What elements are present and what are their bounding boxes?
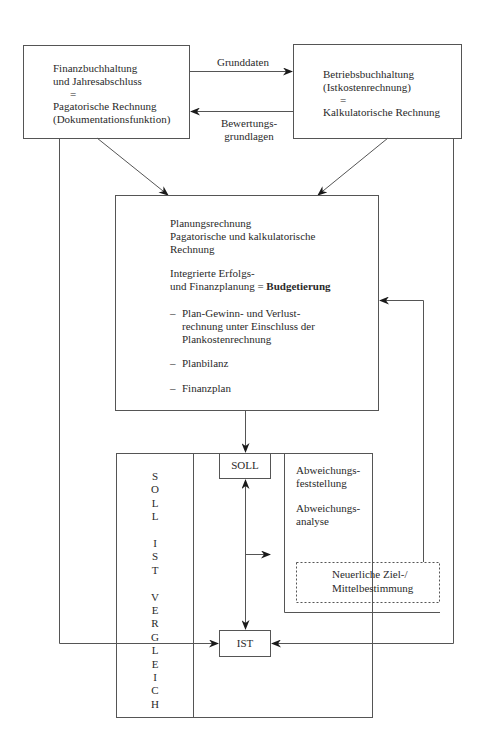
istkostenrechnung: (Istkostenrechnung) [323,81,411,94]
vertical-letter: R [148,617,162,630]
mittelbestimmung: Mittelbestimmung [332,582,413,595]
vertical-letter: S [148,470,162,483]
vertical-letter: L [148,644,162,657]
abweichungs-feststellung-2: feststellung [296,477,347,490]
vertical-letter: E [148,658,162,671]
betriebsbuchhaltung-line-1: Betriebsbuchhaltung [323,68,414,81]
finanzplanung-line: und Finanzplanung = Budgetierung [170,280,331,293]
planungsrechnung-subtitle-2: Rechnung [170,243,215,256]
abweichungs-analyse-1: Abweichungs- [296,502,360,515]
vertical-letter: L [148,497,162,510]
vertical-letter: S [148,550,162,563]
vertical-letter: E [148,604,162,617]
finanzplanung-prefix: und Finanzplanung = [170,280,266,292]
planungsrechnung-subtitle: Pagatorische und kalkulatorische [170,230,315,243]
item-plan-gv-3: Plankostenrechnung [182,333,271,346]
planungsrechnung-title: Planungsrechnung [170,217,251,230]
dokumentationsfunktion: (Dokumentationsfunktion) [53,113,170,126]
vertical-letter: V [148,591,162,604]
abweichungs-analyse-2: analyse [296,515,329,528]
vertical-letter: G [148,631,162,644]
vertical-letter: C [148,684,162,697]
neuerliche-ziel: Neuerliche Ziel-/ [332,568,407,581]
bullet-dash: – [170,382,176,395]
budgetierung: Budgetierung [266,280,330,292]
label-soll: SOLL [219,459,271,472]
label-bewertungs: Bewertungs- [214,117,284,130]
vertical-letter: I [148,537,162,550]
vertical-letter: I [148,671,162,684]
pagatorische-rechnung: Pagatorische Rechnung [53,100,157,113]
item-plan-gv-2: rechnung unter Einschluss der [182,320,315,333]
finanzbuchhaltung-line-1: Finanzbuchhaltung [53,62,137,75]
kalkulatorische-rechnung: Kalkulatorische Rechnung [323,106,440,119]
label-grunddaten: Grunddaten [217,56,269,69]
vertical-letter: H [148,698,162,711]
item-finanzplan: Finanzplan [182,382,231,395]
vertical-letter: O [148,483,162,496]
vertical-letter: T [148,564,162,577]
integrierte-erfolgs: Integrierte Erfolgs- [170,267,255,280]
finanzbuchhaltung-line-2: und Jahresabschluss [53,75,142,88]
item-plan-gv-1: Plan-Gewinn- und Verlust- [182,307,300,320]
bullet-dash: – [170,307,176,320]
label-ist: IST [219,637,271,650]
bullet-dash: – [170,357,176,370]
label-grundlagen: grundlagen [214,130,284,143]
vertical-letter: L [148,510,162,523]
item-planbilanz: Planbilanz [182,357,228,370]
abweichungs-feststellung-1: Abweichungs- [296,464,360,477]
